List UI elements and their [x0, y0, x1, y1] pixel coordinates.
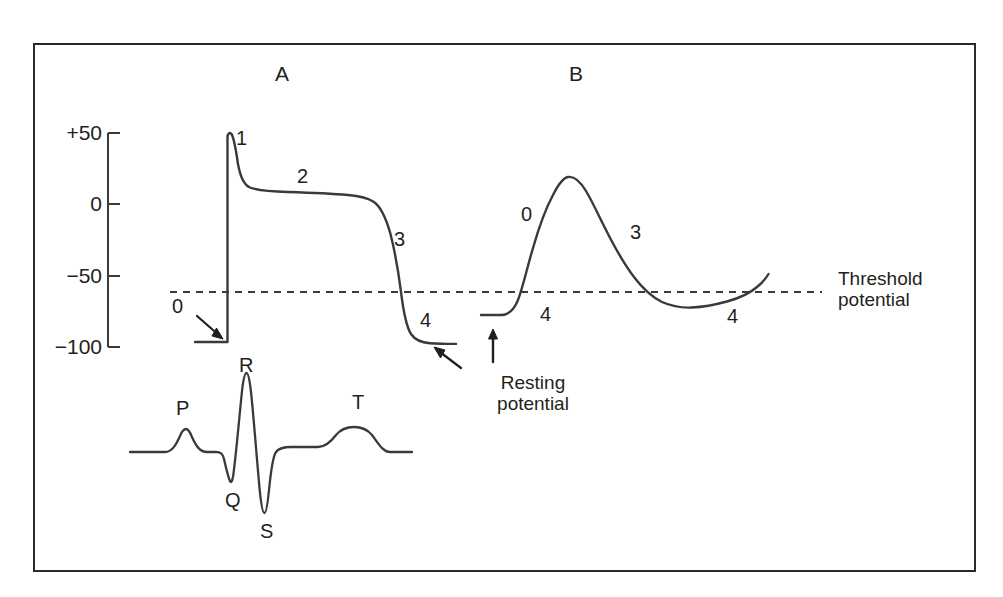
figure-root: A B +50 0 −50 −100 0 1 2 3 4 0 3 4 4 P R…	[0, 0, 1003, 597]
y-axis-label-plus50: +50	[44, 122, 102, 143]
resting-potential-arrow	[489, 329, 498, 362]
ecg-label-t: T	[352, 392, 364, 412]
phase-label-b-4-early: 4	[540, 304, 551, 324]
phase-label-b-4-late: 4	[727, 306, 738, 326]
ecg-trace	[130, 373, 412, 513]
phase-label-a-1: 1	[236, 128, 247, 148]
ecg-label-s: S	[260, 521, 273, 541]
y-axis-label-zero: 0	[44, 193, 102, 214]
phase-label-a-4: 4	[420, 310, 431, 330]
phase-label-b-3: 3	[630, 222, 641, 242]
y-axis	[108, 133, 120, 347]
ecg-label-p: P	[176, 398, 189, 418]
phase-label-b-0: 0	[521, 204, 532, 224]
threshold-potential-label: Threshold potential	[838, 268, 923, 311]
phase-0-arrow-panel-a	[197, 316, 223, 339]
phase-label-a-0: 0	[172, 296, 183, 316]
resting-potential-label: Resting potential	[440, 372, 626, 415]
y-axis-label-minus50: −50	[44, 265, 102, 286]
panel-b-action-potential-curve	[481, 177, 769, 315]
panel-title-b: B	[569, 62, 584, 86]
panel-title-a: A	[275, 62, 290, 86]
phase-label-a-2: 2	[297, 166, 308, 186]
panel-a-action-potential-curve	[195, 133, 456, 344]
ecg-label-q: Q	[225, 490, 241, 510]
phase-label-a-3: 3	[394, 229, 405, 249]
ecg-label-r: R	[239, 355, 253, 375]
phase-4-arrow-panel-a	[434, 347, 461, 368]
y-axis-label-minus100: −100	[34, 336, 102, 357]
